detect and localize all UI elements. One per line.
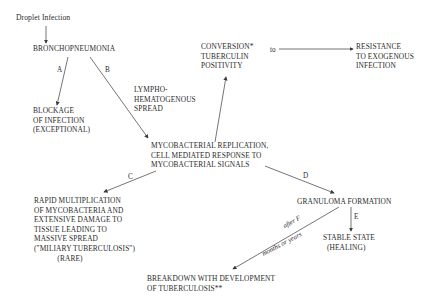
node-conversion-tuberculin-positivity: CONVERSION* TUBERCULIN POSITIVITY — [201, 42, 253, 71]
node-blockage-of-infection: BLOCKAGE OF INFECTION (EXCEPTIONAL) — [33, 106, 90, 135]
node-resistance-exogenous-infection: RESISTANCE TO EXOGENOUS INFECTION — [356, 42, 414, 71]
arrow-d — [265, 166, 334, 193]
edge-label-c: C — [128, 173, 133, 181]
node-droplet-infection: Droplet Infection — [16, 13, 70, 23]
edge-label-e: E — [354, 213, 358, 221]
node-rapid-multiplication-miliary: RAPID MULTIPLICATION OF MYCOBACTERIA AND… — [34, 196, 135, 263]
node-breakdown-tuberculosis: BREAKDOWN WITH DEVELOPMENT OF TUBERCULOS… — [147, 274, 275, 293]
node-granuloma-formation: GRANULOMA FORMATION — [297, 197, 392, 207]
edge-label-d: D — [303, 172, 308, 180]
edge-label-a: A — [57, 66, 62, 74]
arrow-a — [57, 57, 68, 105]
node-stable-state-healing: STABLE STATE (HEALING) — [323, 233, 375, 252]
node-lympho-hematogenous-spread: LYMPHO- HEMATOGENOUS SPREAD — [134, 85, 196, 114]
edge-label-to: to — [270, 46, 276, 54]
node-bronchopneumonia: BRONCHOPNEUMONIA — [33, 44, 115, 54]
node-mycobacterial-replication: MYCOBACTERIAL REPLICATION, CELL MEDIATED… — [151, 141, 268, 170]
arrow-conversion — [215, 77, 226, 142]
edge-label-b: B — [105, 66, 110, 74]
